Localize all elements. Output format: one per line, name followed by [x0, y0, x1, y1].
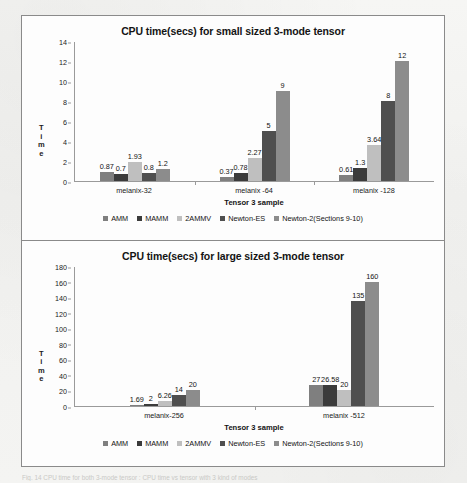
x-axis-category-label: melanix-32 — [74, 186, 194, 195]
bar-value-label: 9 — [280, 81, 284, 90]
bar: 0.87 — [100, 172, 114, 181]
bar: 26.58 — [323, 385, 337, 406]
legend-swatch-icon — [177, 216, 182, 221]
legend-item[interactable]: Newton-2(Sections 9-10) — [274, 439, 363, 448]
x-axis-category-label: melanix -64 — [194, 186, 314, 195]
legend-item[interactable]: 2AMMV — [177, 214, 211, 223]
legend-label: MAMM — [145, 214, 168, 223]
bar-groups-small: 0.870.71.930.81.20.370.782.27590.611.33.… — [75, 42, 434, 181]
y-axis-tick-label: 140 — [55, 294, 67, 303]
bar: 20 — [337, 390, 351, 406]
legend-swatch-icon — [177, 441, 182, 446]
bar-value-label: 2.27 — [247, 148, 261, 157]
bar: 1.3 — [353, 168, 367, 181]
legend-swatch-icon — [103, 441, 108, 446]
plot-area-small: 0.870.71.930.81.20.370.782.27590.611.33.… — [74, 42, 434, 182]
bar-value-label: 1.3 — [355, 158, 365, 167]
x-axis-category-labels-large: melanix-256melanix -512 — [74, 411, 434, 420]
legend-swatch-icon — [137, 216, 142, 221]
bar: 0.37 — [220, 177, 234, 181]
x-axis-category-labels-small: melanix-32melanix -64melanix -128 — [74, 186, 434, 195]
bar: 0.7 — [114, 174, 128, 181]
bar-group: 2726.5820135160 — [255, 267, 435, 406]
bar-group: 1.6926.261420 — [75, 267, 255, 406]
bar: 135 — [351, 301, 365, 406]
plot-wrap-large: Time 020406080100120140160180 1.6926.261… — [22, 267, 444, 466]
legend-item[interactable]: Newton-ES — [220, 214, 265, 223]
bar: 0.8 — [142, 173, 156, 181]
bar-group: 0.611.33.64812 — [314, 42, 434, 181]
bar-group: 0.870.71.930.81.2 — [75, 42, 195, 181]
bar: 0.78 — [234, 173, 248, 181]
bar: 1.2 — [156, 169, 170, 181]
chart-title-small: CPU time(secs) for small sized 3-mode te… — [22, 25, 444, 37]
chart-panel-large: CPU time(secs) for large sized 3-mode te… — [22, 241, 444, 466]
y-axis-tick-label: 60 — [59, 356, 67, 365]
bar-value-label: 0.8 — [144, 163, 154, 172]
legend-label: AMM — [111, 439, 128, 448]
y-axis-tick-label: 6 — [63, 118, 67, 127]
bar-cluster: 0.611.33.64812 — [339, 42, 409, 181]
bar-value-label: 2 — [149, 394, 153, 403]
legend-item[interactable]: MAMM — [137, 439, 168, 448]
y-axis-tick-label: 20 — [59, 387, 67, 396]
y-axis-ticks-large: 020406080100120140160180 — [48, 267, 70, 407]
legend-label: 2AMMV — [185, 439, 211, 448]
y-axis-ticks-small: 02468101214 — [48, 42, 70, 182]
legend-label: AMM — [111, 214, 128, 223]
bar-value-label: 20 — [189, 380, 197, 389]
bar-value-label: 5 — [266, 121, 270, 130]
bar: 3.64 — [367, 145, 381, 181]
bar-value-label: 135 — [352, 291, 364, 300]
bar-value-label: 8 — [386, 91, 390, 100]
legend-swatch-icon — [220, 441, 225, 446]
legend-item[interactable]: 2AMMV — [177, 439, 211, 448]
y-axis-title-small: Time — [38, 124, 45, 158]
x-axis-category-label: melanix-256 — [74, 411, 254, 420]
plot-area-large: 1.6926.2614202726.5820135160 — [74, 267, 434, 407]
legend-item[interactable]: Newton-ES — [220, 439, 265, 448]
y-axis-tick-label: 12 — [59, 58, 67, 67]
y-axis-tick-label: 100 — [55, 325, 67, 334]
bar-value-label: 20 — [340, 380, 348, 389]
bar-value-label: 1.93 — [128, 152, 142, 161]
bar-value-label: 14 — [175, 385, 183, 394]
legend-item[interactable]: AMM — [103, 439, 128, 448]
legend-label: Newton-ES — [228, 439, 265, 448]
legend-swatch-icon — [137, 441, 142, 446]
bar: 2 — [144, 404, 158, 406]
legend-label: Newton-ES — [228, 214, 265, 223]
legend-item[interactable]: AMM — [103, 214, 128, 223]
y-axis-tick-label: 14 — [59, 38, 67, 47]
legend-label: Newton-2(Sections 9-10) — [282, 214, 363, 223]
bar-value-label: 6.26 — [158, 391, 172, 400]
legend-large: AMMMAMM2AMMVNewton-ESNewton-2(Sections 9… — [22, 439, 444, 448]
plot-wrap-small: Time 02468101214 0.870.71.930.81.20.370.… — [22, 42, 444, 240]
bar-value-label: 26.58 — [321, 375, 339, 384]
bar-value-label: 0.87 — [100, 162, 114, 171]
y-axis-tick-label: 0 — [63, 403, 67, 412]
legend-swatch-icon — [103, 216, 108, 221]
bar-value-label: 3.64 — [367, 135, 381, 144]
legend-label: 2AMMV — [185, 214, 211, 223]
legend-label: Newton-2(Sections 9-10) — [282, 439, 363, 448]
bar-value-label: 0.61 — [339, 165, 353, 174]
bar-groups-large: 1.6926.2614202726.5820135160 — [75, 267, 434, 406]
figure-caption: Fig. 14 CPU time for both 3-mode tensor … — [22, 474, 452, 481]
bar: 1.69 — [130, 405, 144, 406]
y-axis-tick-label: 160 — [55, 278, 67, 287]
bar: 8 — [381, 101, 395, 181]
legend-item[interactable]: Newton-2(Sections 9-10) — [274, 214, 363, 223]
bar-group: 0.370.782.2759 — [195, 42, 315, 181]
bar: 27 — [309, 385, 323, 406]
y-axis-tick-label: 10 — [59, 78, 67, 87]
x-axis-title-large: Tensor 3 sample — [74, 423, 434, 432]
legend-swatch-icon — [220, 216, 225, 221]
bar: 2.27 — [248, 158, 262, 181]
chart-title-large: CPU time(secs) for large sized 3-mode te… — [22, 250, 444, 262]
legend-item[interactable]: MAMM — [137, 214, 168, 223]
y-axis-tick-label: 180 — [55, 263, 67, 272]
y-axis-tick-label: 80 — [59, 340, 67, 349]
y-axis-tick-label: 2 — [63, 158, 67, 167]
y-axis-title-char: e — [38, 375, 45, 384]
